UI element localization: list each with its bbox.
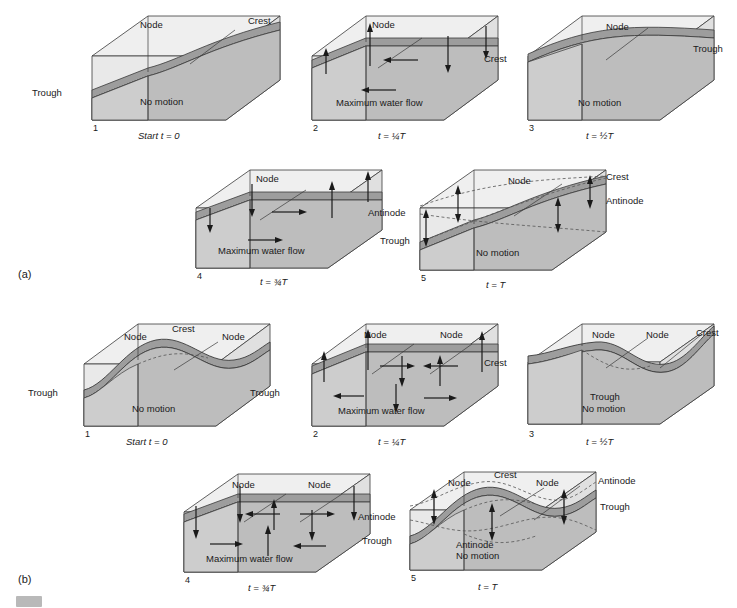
section-label-b: (b): [18, 573, 31, 585]
state-text: Maximum water flow: [338, 405, 425, 416]
panel-time: t = T: [478, 581, 498, 592]
callout-antinode-left: Antinode: [368, 207, 406, 218]
callout-trough-left: Trough: [28, 387, 58, 398]
callout-crest: Crest: [606, 171, 629, 182]
panel-number: 3: [529, 429, 534, 439]
callout-node-left: Node: [124, 331, 147, 342]
callout-trough: Trough: [590, 391, 620, 402]
callout-antinode-right: Antinode: [606, 195, 644, 206]
panel-number: 2: [313, 429, 318, 439]
callout-trough-left: Trough: [362, 535, 392, 546]
panel-number: 2: [313, 123, 318, 133]
callout-node: Node: [508, 175, 531, 186]
panel-time: t = ¼T: [378, 130, 406, 141]
callout-node: Node: [372, 19, 395, 30]
tank-a1: [92, 16, 280, 120]
panel-number: 3: [529, 123, 534, 133]
panel-a5: Node Crest Antinode Antinode Trough No m…: [368, 158, 648, 288]
panel-time: t = ¾T: [260, 276, 288, 287]
panel-number: 4: [185, 575, 190, 585]
callout-node-left: Node: [592, 329, 615, 340]
panel-time: Start t = 0: [138, 130, 180, 141]
panel-time: t = ¾T: [248, 582, 276, 593]
callout-trough: Trough: [693, 43, 723, 54]
callout-trough: Trough: [32, 87, 62, 98]
panel-a3: Node Trough Crest No motion 3 t = ½T: [480, 8, 737, 143]
tank-b5: [410, 472, 596, 570]
state-text: No motion: [456, 550, 499, 561]
callout-trough-right: Trough: [600, 501, 630, 512]
panel-a1: Node Crest Trough No motion 1 Start t = …: [30, 8, 300, 143]
callout-crest: Crest: [484, 53, 507, 64]
callout-trough: Trough: [380, 235, 410, 246]
callout-node-right: Node: [646, 329, 669, 340]
callout-node: Node: [606, 21, 629, 32]
callout-node-right: Node: [440, 329, 463, 340]
section-label-a: (a): [18, 268, 31, 280]
panel-time: t = ½T: [586, 130, 614, 141]
panel-number: 1: [85, 429, 90, 439]
panel-time: t = ½T: [586, 436, 614, 447]
callout-node-right: Node: [308, 479, 331, 490]
panel-time: t = ¼T: [378, 436, 406, 447]
state-text: No motion: [140, 96, 183, 107]
callout-node-left: Node: [364, 329, 387, 340]
state-text: No motion: [578, 97, 621, 108]
panel-b5: Node Crest Node Antinode Trough Antinode…: [358, 458, 638, 593]
callout-node: Node: [140, 19, 163, 30]
callout-crest: Crest: [172, 323, 195, 334]
state-text: No motion: [582, 403, 625, 414]
panel-number: 4: [197, 271, 202, 281]
callout-crest-right: Crest: [696, 327, 719, 338]
panel-number: 5: [411, 573, 416, 583]
state-text: Maximum water flow: [218, 245, 305, 256]
callout-crest: Crest: [248, 15, 271, 26]
panel-b3: Node Node Crest Crest Trough No motion 3…: [480, 312, 737, 447]
panel-b1: Node Crest Node Trough Trough No motion …: [22, 312, 282, 447]
callout-antinode-center: Antinode: [456, 539, 494, 550]
panel-time: t = T: [486, 279, 506, 290]
state-text: No motion: [132, 403, 175, 414]
callout-crest-left: Crest: [484, 357, 507, 368]
panel-number: 5: [421, 273, 426, 283]
state-text: Maximum water flow: [336, 97, 423, 108]
callout-node-left: Node: [232, 479, 255, 490]
figure-tag-mark: [16, 596, 42, 607]
panel-time: Start t = 0: [126, 436, 168, 447]
state-text: Maximum water flow: [206, 553, 293, 564]
panel-number: 1: [93, 123, 98, 133]
callout-node-right: Node: [222, 331, 245, 342]
callout-node-right: Node: [536, 477, 559, 488]
callout-node: Node: [256, 173, 279, 184]
state-text: No motion: [476, 247, 519, 258]
callout-crest: Crest: [494, 469, 517, 480]
callout-node-left: Node: [448, 477, 471, 488]
callout-antinode-topright: Antinode: [598, 475, 636, 486]
callout-antinode-left: Antinode: [358, 511, 396, 522]
